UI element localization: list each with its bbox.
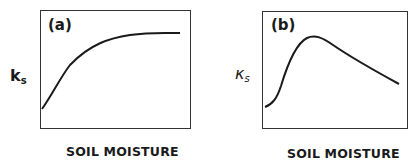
panel-tag-a: (a) xyxy=(48,16,72,34)
panel-a: (a) ks SOIL MOISTURE xyxy=(0,0,207,168)
y-label-sub-a: s xyxy=(21,75,27,86)
panel-b: (b) κs SOIL MOISTURE xyxy=(207,0,414,168)
y-label-main-a: k xyxy=(10,66,21,85)
curve-b xyxy=(207,0,414,168)
x-axis-label-a: SOIL MOISTURE xyxy=(66,144,179,159)
y-label-sub-b: s xyxy=(244,73,249,84)
x-axis-label-b: SOIL MOISTURE xyxy=(287,146,400,161)
curve-a xyxy=(0,0,207,168)
y-axis-label-a: ks xyxy=(10,66,27,86)
panel-tag-b: (b) xyxy=(271,16,295,34)
y-axis-label-b: κs xyxy=(235,64,250,84)
